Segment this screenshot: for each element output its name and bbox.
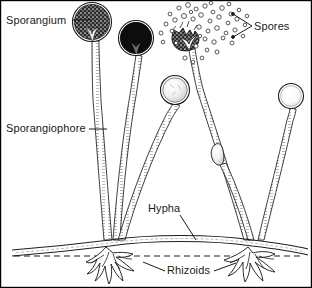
- sporangium-mature-black: [119, 21, 154, 56]
- rhizopus-diagram: Sporangium Sporangiophore Spores Hypha R…: [0, 0, 312, 288]
- rhizoids-left: [86, 247, 134, 284]
- label-rhizoids: Rhizoids: [167, 264, 210, 276]
- stalk-6: [258, 108, 296, 240]
- sporangium-immature-tip: [211, 144, 224, 166]
- leader-rhizoids-left: [143, 262, 165, 271]
- stalk-5: [220, 163, 254, 240]
- sporangium-young-grey: [161, 76, 190, 105]
- sporangiophore-stalks: [92, 41, 296, 240]
- sporangium-young-pale: [279, 84, 304, 109]
- label-hypha: Hypha: [148, 202, 180, 214]
- label-sporangium: Sporangium: [6, 14, 66, 26]
- leader-hypha: [180, 215, 196, 240]
- sporangium-mature-stippled: [73, 3, 112, 42]
- spore-cloud: [159, 1, 249, 64]
- label-spores: Spores: [254, 20, 289, 32]
- stalk-1: [92, 41, 112, 240]
- label-sporangiophore: Sporangiophore: [6, 122, 86, 134]
- diagram-canvas: [0, 0, 312, 288]
